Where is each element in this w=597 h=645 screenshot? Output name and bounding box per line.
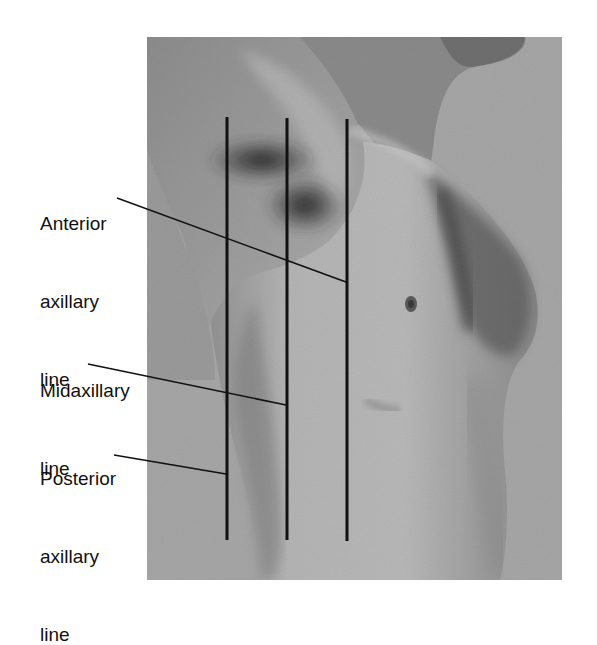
label-line: Anterior [40,211,107,237]
photo [147,37,562,580]
label-line: axillary [40,544,116,570]
label-line: axillary [40,289,107,315]
armpit-hair-lower [265,177,345,233]
nipple-center [408,300,414,308]
label-line: Midaxillary [40,378,130,404]
posterior-axillary-label: Posterior axillary line [40,414,116,645]
label-line: line [40,622,116,645]
armpit-hair [207,138,317,182]
label-line: Posterior [40,466,116,492]
